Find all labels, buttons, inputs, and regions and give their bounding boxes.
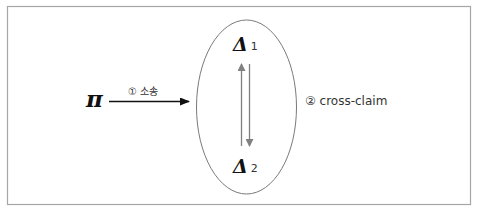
plaintiff-node-pi: π bbox=[86, 87, 103, 110]
delta2-symbol: Δ bbox=[233, 155, 248, 177]
diagram-canvas bbox=[0, 0, 477, 211]
defendant-node-delta1: Δ1 bbox=[233, 35, 258, 54]
lawsuit-edge-label: ① 소송 bbox=[128, 87, 158, 97]
cross-claim-edge-label: ② cross-claim bbox=[305, 95, 387, 107]
delta1-subscript: 1 bbox=[251, 40, 258, 53]
delta2-subscript: 2 bbox=[251, 162, 258, 175]
delta1-symbol: Δ bbox=[233, 33, 248, 55]
defendant-node-delta2: Δ2 bbox=[233, 157, 258, 176]
